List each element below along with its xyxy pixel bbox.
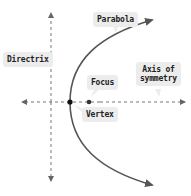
axis-label-tail (155, 89, 161, 97)
parabola-curve (70, 20, 152, 185)
vertex-label: Vertex (82, 107, 118, 122)
focus-point (87, 100, 92, 105)
parabola-label: Parabola (93, 12, 138, 27)
directrix-label: Directrix (3, 52, 53, 67)
axis-of-symmetry-label: Axis of symmetry (136, 62, 181, 86)
vertex-label-text: Vertex (86, 110, 114, 119)
vertex-point (67, 99, 72, 104)
axis-label-line2: symmetry (140, 74, 177, 83)
focus-label-text: Focus (91, 78, 114, 87)
directrix-label-text: Directrix (7, 55, 49, 64)
parabola-label-text: Parabola (97, 15, 134, 24)
parabola-diagram: Parabola Directrix Focus Vertex Axis of … (0, 0, 191, 196)
diagram-canvas (0, 0, 191, 196)
axis-label-line1: Axis of (140, 65, 177, 74)
focus-label: Focus (87, 75, 118, 90)
